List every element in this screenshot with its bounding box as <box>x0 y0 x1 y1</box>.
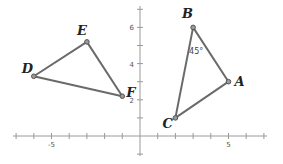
angle-label: 45° <box>189 47 203 56</box>
vertex-point-e <box>85 40 90 45</box>
y-tick-label: 4 <box>130 61 135 69</box>
vertex-point-f <box>120 94 125 99</box>
triangle-def: DEF <box>21 23 137 100</box>
y-tick-label: 6 <box>130 24 135 32</box>
vertex-point-a <box>226 79 231 84</box>
vertex-point-b <box>191 25 196 30</box>
triangle-edges <box>34 42 123 96</box>
triangle-edges <box>175 27 228 118</box>
vertex-label-e: E <box>76 23 88 38</box>
triangle-abc: ABC45° <box>162 6 244 130</box>
x-tick-label: -5 <box>48 141 55 149</box>
vertex-point-c <box>173 116 178 121</box>
vertex-label-a: A <box>233 74 245 89</box>
vertex-label-c: C <box>162 116 173 131</box>
vertex-label-d: D <box>21 61 34 76</box>
x-tick-labels: -55 <box>48 141 231 149</box>
coordinate-plane: -55 246 ABC45°DEF <box>0 0 283 164</box>
vertex-label-b: B <box>181 6 193 21</box>
vertex-label-f: F <box>125 85 136 100</box>
x-tick-label: 5 <box>226 141 230 149</box>
